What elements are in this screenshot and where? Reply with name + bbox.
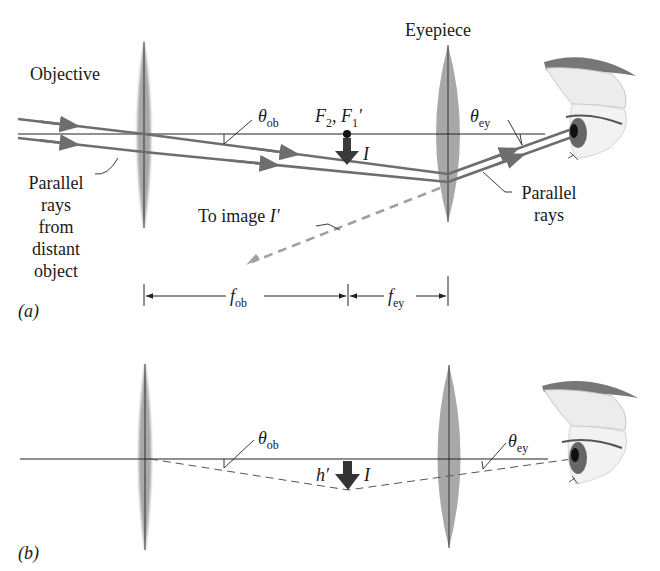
f-ey-label: fey xyxy=(388,286,404,313)
h-prime-label: h′ xyxy=(316,465,329,485)
image-arrow-b xyxy=(335,461,360,490)
dashed-ray-to-image xyxy=(252,188,440,262)
leader-parallel-right xyxy=(483,172,512,192)
theta-ey-leader-a xyxy=(508,120,522,145)
theta-ob-leader-b xyxy=(224,440,254,468)
ray-top-a xyxy=(18,119,448,174)
image-label-b: I xyxy=(364,465,370,485)
objective-lens-b xyxy=(139,362,152,552)
theta-ob-label-b: θob xyxy=(258,428,279,455)
eye-illustration-a xyxy=(544,57,636,160)
parallel-rays-left-label: Parallel rays from distant object xyxy=(14,172,98,282)
eyepiece-label: Eyepiece xyxy=(405,20,471,40)
panel-a xyxy=(18,40,636,306)
dashed-ray-b xyxy=(150,459,572,490)
parallel-rays-right-label: Parallel rays xyxy=(514,182,584,226)
eye-illustration-b xyxy=(542,381,638,484)
theta-ob-leader-a xyxy=(224,120,252,144)
panel-b xyxy=(20,362,638,552)
theta-ey-label-a: θey xyxy=(470,106,490,133)
to-image-label: To image I′ xyxy=(198,206,280,226)
f-ob-label: fob xyxy=(230,286,247,313)
leader-parallel-left xyxy=(95,158,118,174)
theta-ob-label-a: θob xyxy=(258,106,279,133)
theta-ey-leader-b xyxy=(482,443,506,469)
objective-label: Objective xyxy=(30,64,100,84)
theta-ey-label-b: θey xyxy=(508,431,528,458)
image-label-a: I xyxy=(363,144,369,164)
eyepiece-lens-b xyxy=(438,365,461,548)
panel-b-label: (b) xyxy=(18,543,39,563)
telescope-diagram xyxy=(0,0,660,571)
panel-a-label: (a) xyxy=(18,301,39,321)
focal-points-label: F2, F1′ xyxy=(315,106,362,133)
